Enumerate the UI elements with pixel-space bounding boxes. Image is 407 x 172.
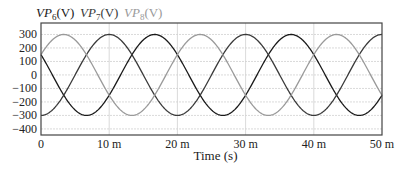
x-tick-label: 40 m [302,137,327,151]
x-tick-label: 0 [38,137,44,151]
legend: VP6(V)VP7(V)VP8(V) [36,5,162,22]
y-axis: 3002001000−100−200−300−400 [12,27,37,135]
y-tick-label: −400 [12,122,37,136]
x-tick-label: 10 m [97,137,122,151]
x-tick-label: 20 m [165,137,190,151]
y-tick-label: 300 [19,27,37,41]
x-tick-label: 50 m [370,137,395,151]
y-tick-label: −100 [12,81,37,95]
y-tick-label: −200 [12,95,37,109]
y-tick-label: 100 [19,54,37,68]
y-tick-label: −300 [12,108,37,122]
legend-item-vp6: VP6(V) [36,5,74,22]
chart: VP6(V)VP7(V)VP8(V) 3002001000−100−200−30… [0,0,407,172]
legend-item-vp7: VP7(V) [80,5,118,22]
y-tick-label: 0 [31,68,37,82]
y-tick-label: 200 [19,41,37,55]
x-axis-title: Time (s) [194,148,238,163]
legend-item-vp8: VP8(V) [124,5,162,22]
